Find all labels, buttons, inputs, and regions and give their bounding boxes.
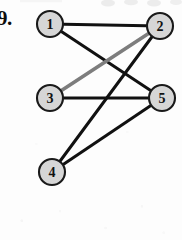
graph-node-4: 4	[39, 159, 65, 185]
graph-node-label-4: 4	[49, 165, 56, 180]
graph-diagram: 12345	[0, 0, 182, 240]
graph-edge-4-5	[52, 98, 162, 172]
graph-node-3: 3	[37, 85, 63, 111]
graph-node-label-5: 5	[159, 91, 166, 106]
graph-node-label-3: 3	[47, 91, 54, 106]
graph-node-label-2: 2	[157, 19, 164, 34]
graph-node-1: 1	[37, 11, 63, 37]
graph-node-5: 5	[149, 85, 175, 111]
edges-layer	[50, 24, 162, 172]
graph-node-2: 2	[147, 13, 173, 39]
graph-edge-1-2	[50, 24, 160, 26]
graph-node-label-1: 1	[47, 17, 54, 32]
